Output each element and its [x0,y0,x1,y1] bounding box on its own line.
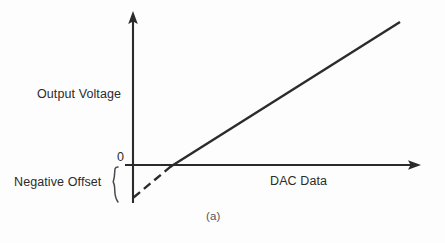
figure-caption: (a) [206,210,220,222]
negative-offset-brace-icon [113,167,118,202]
figure-container: Output Voltage DAC Data 0 Negative Offse… [0,0,445,243]
x-axis-label: DAC Data [270,174,327,188]
negative-offset-annotation-label: Negative Offset [14,175,101,189]
y-axis-label: Output Voltage [37,87,121,101]
origin-zero-label: 0 [117,150,124,164]
y-axis [128,11,138,203]
offset-extrapolation-dashed-line [134,166,173,198]
transfer-function-plot [0,0,445,243]
transfer-function-line [170,22,400,167]
